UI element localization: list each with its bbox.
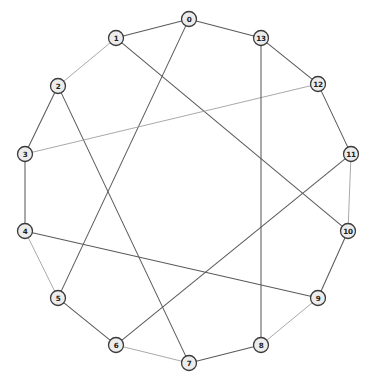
node-circle[interactable] (51, 291, 66, 306)
graph-edge (63, 302, 111, 341)
graph-edge (28, 237, 55, 292)
graph-node-3[interactable]: 3 (18, 147, 33, 162)
graph-node-8[interactable]: 8 (254, 338, 269, 353)
node-circle[interactable] (311, 77, 326, 92)
graph-edge (321, 90, 348, 148)
graph-edge (122, 347, 182, 362)
graph-edge (28, 92, 55, 148)
graph-node-0[interactable]: 0 (182, 12, 197, 27)
graph-node-2[interactable]: 2 (51, 79, 66, 94)
graph-node-6[interactable]: 6 (109, 338, 124, 353)
node-circle[interactable] (109, 31, 124, 46)
graph-node-5[interactable]: 5 (51, 291, 66, 306)
graph-edge (195, 21, 254, 37)
graph-edge (61, 25, 186, 292)
node-circle[interactable] (254, 31, 269, 46)
graph-canvas: 012345678910111213 (0, 0, 372, 383)
node-circle[interactable] (109, 338, 124, 353)
graph-edge (122, 21, 182, 37)
node-circle[interactable] (254, 338, 269, 353)
graph-node-1[interactable]: 1 (109, 31, 124, 46)
node-circle[interactable] (344, 147, 359, 162)
graph-node-7[interactable]: 7 (182, 356, 197, 371)
graph-figure: 012345678910111213 (0, 0, 372, 383)
graph-edge (195, 347, 254, 362)
graph-node-9[interactable]: 9 (311, 291, 326, 306)
node-circle[interactable] (311, 291, 326, 306)
edge-layer (25, 21, 351, 362)
graph-node-11[interactable]: 11 (344, 147, 359, 162)
graph-edge (61, 92, 186, 357)
node-circle[interactable] (18, 147, 33, 162)
graph-edge (121, 42, 343, 227)
node-circle[interactable] (182, 356, 197, 371)
node-circle[interactable] (18, 224, 33, 239)
graph-edge (266, 42, 313, 80)
graph-node-12[interactable]: 12 (311, 77, 326, 92)
node-circle[interactable] (51, 79, 66, 94)
graph-node-13[interactable]: 13 (254, 31, 269, 46)
graph-edge (348, 161, 351, 225)
graph-edge (266, 302, 313, 341)
node-circle[interactable] (341, 224, 356, 239)
graph-node-4[interactable]: 4 (18, 224, 33, 239)
node-circle[interactable] (182, 12, 197, 27)
graph-edge (121, 158, 346, 341)
graph-edge (63, 42, 111, 82)
node-layer: 012345678910111213 (18, 12, 359, 371)
graph-node-10[interactable]: 10 (341, 224, 356, 239)
graph-edge (321, 237, 346, 292)
